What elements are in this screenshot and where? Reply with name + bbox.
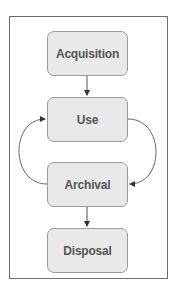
node-label: Archival [65,178,111,192]
node-archival: Archival [47,162,128,207]
node-label: Use [77,113,98,127]
node-disposal: Disposal [47,228,128,273]
node-use: Use [47,97,128,142]
node-label: Acquisition [56,47,119,61]
node-label: Disposal [63,244,111,258]
node-acquisition: Acquisition [47,31,128,76]
